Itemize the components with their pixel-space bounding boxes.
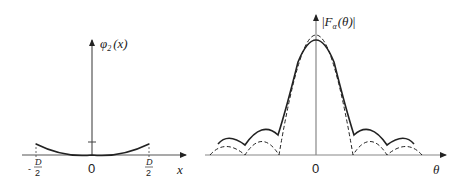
svg-text:D: D — [145, 157, 153, 167]
svg-text:-: - — [28, 164, 31, 174]
tick-d-over-2: D 2 — [145, 157, 153, 178]
left-y-label: φ2(x) — [100, 36, 128, 53]
left-panel: φ2(x) x 0 - D 2 D 2 — [22, 36, 186, 178]
right-panel: |Fα(θ)| θ 0 — [205, 14, 446, 177]
right-y-label: |Fα(θ)| — [322, 14, 355, 31]
svg-text:2: 2 — [146, 168, 151, 178]
left-origin-label: 0 — [88, 161, 95, 176]
tick-minus-d-over-2: - D 2 — [28, 157, 42, 178]
svg-text:2: 2 — [35, 168, 40, 178]
right-x-label: θ — [433, 162, 440, 177]
svg-text:D: D — [34, 157, 42, 167]
figure: φ2(x) x 0 - D 2 D 2 |Fα(θ)| θ 0 — [0, 0, 466, 188]
left-x-label: x — [176, 162, 183, 177]
right-origin-label: 0 — [312, 161, 319, 176]
